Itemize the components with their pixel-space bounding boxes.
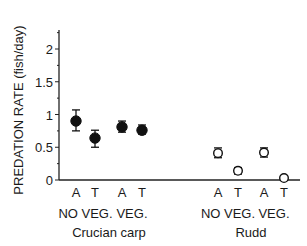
x-group-label: NO VEG. [201, 206, 255, 221]
open-data-point [234, 167, 243, 176]
marker [71, 116, 81, 126]
predation-rate-chart: 00.511.52 ATATATATNO VEG.VEG.NO VEG.VEG.… [0, 0, 307, 246]
x-group-label: VEG. [116, 206, 147, 221]
x-category-label: T [138, 185, 146, 200]
filled-data-point [71, 110, 81, 131]
species-label: Rudd [235, 225, 266, 240]
x-labels: ATATATATNO VEG.VEG.NO VEG.VEG.Crucian ca… [58, 185, 289, 240]
y-tick-label: 0 [46, 173, 53, 188]
open-data-point [260, 148, 269, 157]
y-tick-label: 2 [46, 42, 53, 57]
species-label: Crucian carp [72, 225, 146, 240]
x-category-label: A [72, 185, 81, 200]
marker [137, 125, 147, 135]
filled-data-point [137, 125, 147, 135]
marker [90, 133, 100, 143]
x-category-label: T [280, 185, 288, 200]
open-data-point [214, 148, 223, 158]
data-points [71, 110, 289, 182]
x-group-label: VEG. [258, 206, 289, 221]
y-ticks: 00.511.52 [35, 33, 59, 188]
filled-data-point [90, 130, 100, 147]
marker [214, 149, 223, 158]
open-data-point [280, 174, 289, 183]
x-category-label: T [91, 185, 99, 200]
x-category-label: T [234, 185, 242, 200]
x-category-label: A [214, 185, 223, 200]
marker [280, 174, 289, 183]
y-tick-label: 1 [46, 108, 53, 123]
marker [117, 122, 127, 132]
y-tick-label: 1.5 [35, 75, 53, 90]
filled-data-point [117, 121, 127, 132]
y-axis-label: PREDATION RATE (fish/day) [11, 25, 26, 194]
marker [260, 148, 269, 157]
y-tick-label: 0.5 [35, 140, 53, 155]
x-category-label: A [260, 185, 269, 200]
marker [234, 167, 243, 176]
x-category-label: A [118, 185, 127, 200]
x-group-label: NO VEG. [58, 206, 112, 221]
